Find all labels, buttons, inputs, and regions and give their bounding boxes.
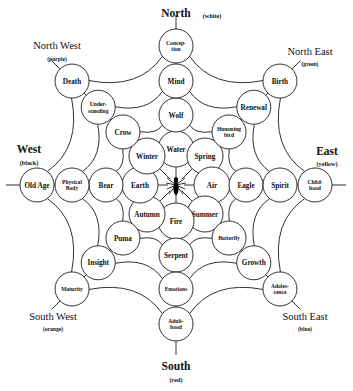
node-circle[interactable] [81,90,115,124]
node-circle[interactable] [212,221,246,255]
direction-color-label: (red) [170,376,183,384]
direction-label-south-east: South East(blue) [282,311,327,333]
direction-color-label: (yellow) [317,160,338,168]
direction-color-label: (orange) [43,326,63,333]
direction-name: North West [33,40,81,51]
node-circle[interactable] [106,115,140,149]
node-circle[interactable] [229,168,263,202]
direction-color-label: (blue) [298,326,312,333]
node-circle[interactable] [263,64,297,98]
node-eagle[interactable]: Eagle [229,168,263,202]
direction-color-label: (black) [20,159,39,167]
node-mind[interactable]: Mind [159,64,193,98]
node-circle[interactable] [55,272,89,306]
node-understanding[interactable]: Under-standing [81,90,115,124]
direction-label-north-east: North East(green) [287,46,332,68]
node-emotions[interactable]: Emotions [159,272,193,306]
node-circle[interactable] [237,246,271,280]
node-circle[interactable] [89,168,123,202]
direction-name: East [316,145,338,157]
direction-name: West [17,143,41,155]
node-butterfly[interactable]: Butterfly [212,221,246,255]
node-birth[interactable]: Birth [263,64,297,98]
spider-cephalothorax [174,177,178,184]
node-circle[interactable] [263,272,297,306]
node-circle[interactable] [81,246,115,280]
direction-label-east: East(yellow) [316,145,338,168]
direction-label-west: West(black) [17,143,41,167]
direction-label-north: North(white) [161,7,221,20]
direction-label-north-west: North West(purple) [33,40,81,63]
direction-name: South West [29,311,77,322]
node-circle[interactable] [55,168,89,202]
direction-label-south: South(red) [162,360,191,384]
node-circle[interactable] [212,115,246,149]
node-bear[interactable]: Bear [89,168,123,202]
direction-color-label: (green) [302,61,319,68]
node-insight[interactable]: Insight [81,246,115,280]
node-circle[interactable] [55,64,89,98]
node-circle[interactable] [159,238,193,272]
direction-name: South East [282,311,327,322]
direction-label-south-west: South West(orange) [29,311,77,333]
node-death[interactable]: Death [55,64,89,98]
node-circle[interactable] [159,272,193,306]
node-serpent[interactable]: Serpent [159,238,193,272]
node-renewal[interactable]: Renewal [237,90,271,124]
node-circle[interactable] [159,64,193,98]
spider-abdomen [173,182,178,195]
direction-name: North [161,7,191,19]
node-adolescence[interactable]: Adoles-cence [263,272,297,306]
node-circle[interactable] [237,90,271,124]
node-circle[interactable] [106,221,140,255]
node-circle[interactable] [263,168,297,202]
direction-color-label: (white) [203,12,222,20]
node-circle[interactable] [159,307,193,341]
node-circle[interactable] [159,98,193,132]
node-puma[interactable]: Puma [106,221,140,255]
node-crow[interactable]: Crow [106,115,140,149]
node-oldage[interactable]: Old Age [20,168,54,202]
node-circle[interactable] [159,29,193,63]
direction-name: North East [287,46,332,57]
node-maturity[interactable]: Maturity [55,272,89,306]
web-svg: WaterWolfMindConcep-tionSpringHummingbir… [0,0,353,391]
node-conception[interactable]: Concep-tion [159,29,193,63]
node-childhood[interactable]: Child-hood [298,168,332,202]
direction-color-label: (purple) [47,56,67,63]
node-wolf[interactable]: Wolf [159,98,193,132]
node-circle[interactable] [20,168,54,202]
node-physicalbody[interactable]: PhysicalBody [55,168,89,202]
node-spirit[interactable]: Spirit [263,168,297,202]
direction-name: South [162,360,191,372]
node-growth[interactable]: Growth [237,246,271,280]
node-hummingbird[interactable]: Hummingbird [212,115,246,149]
node-adulthood[interactable]: Adult-hood [159,307,193,341]
node-circle[interactable] [298,168,332,202]
